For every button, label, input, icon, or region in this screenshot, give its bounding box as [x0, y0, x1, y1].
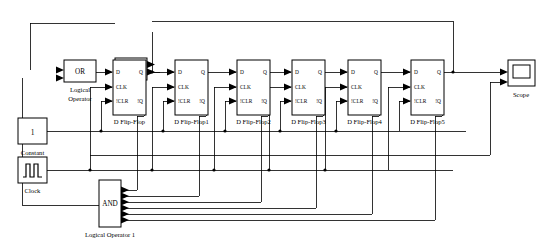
- port-label-clk: CLK: [295, 84, 306, 90]
- flipflop-label: D Flip-Flop3: [291, 118, 326, 125]
- wire-ff5-qbar-to-and-in6[interactable]: [124, 103, 442, 220]
- port-label-d: D: [295, 69, 299, 75]
- flipflop-label: D Flip-Flop1: [174, 118, 209, 125]
- and-input-4-arrow: [121, 205, 129, 212]
- scope-input-1-arrow: [500, 69, 508, 76]
- constant-value: 1: [31, 128, 35, 137]
- scope-input-2-arrow: [500, 79, 508, 86]
- and-label: Logical Operator 1: [85, 231, 135, 238]
- block-d-flip-flop-3[interactable]: DCLK!CLRQ!Q: [284, 60, 325, 115]
- input-port-clk-arrow: [340, 84, 348, 91]
- wire-clr-drop-ff3[interactable]: [280, 101, 291, 131]
- and-input-6-arrow: [121, 217, 129, 224]
- junction-clk-ff3: [267, 168, 270, 171]
- port-label-clk: CLK: [240, 84, 251, 90]
- port-label-q: Q: [263, 69, 267, 75]
- block-diagram: XOR Logical Operator 2 OR Logical Operat…: [0, 0, 545, 242]
- port-label-qbar: !Q: [261, 98, 267, 104]
- port-label-d: D: [178, 69, 182, 75]
- port-label-d: D: [116, 69, 120, 75]
- junction-clk-ff4: [323, 168, 326, 171]
- block-constant[interactable]: 1 Constant: [18, 118, 47, 156]
- port-label-q: Q: [437, 69, 441, 75]
- and-input-5-arrow: [121, 211, 129, 218]
- input-port-d-arrow: [340, 69, 348, 76]
- junction-clr-ff4: [334, 129, 337, 132]
- port-label-q: Q: [374, 69, 378, 75]
- wire-ff1-qbar-to-and-in2[interactable]: [124, 103, 206, 196]
- input-port-clk-arrow: [167, 84, 175, 91]
- simulink-model-canvas[interactable]: XOR Logical Operator 2 OR Logical Operat…: [0, 0, 545, 242]
- port-label-clr: !CLR: [414, 98, 427, 104]
- input-port-d-arrow: [229, 69, 237, 76]
- junction-ff5q: [451, 70, 454, 73]
- port-label-q: Q: [139, 69, 143, 75]
- junction-clk-ff2: [212, 168, 215, 171]
- clock-body[interactable]: [18, 157, 47, 183]
- flipflop-label: D Flip-Flop4: [347, 118, 382, 125]
- input-port-clk-arrow: [229, 84, 237, 91]
- wire-clr-drop-ff4[interactable]: [336, 101, 347, 131]
- and-input-2-arrow: [121, 193, 129, 200]
- input-port-d-arrow: [167, 69, 175, 76]
- junction-clr-ff0: [99, 129, 102, 132]
- port-label-qbar: !Q: [435, 98, 441, 104]
- wire-clr-drop-ff5[interactable]: [399, 101, 410, 131]
- port-label-clk: CLK: [351, 84, 362, 90]
- port-label-clr: !CLR: [240, 98, 253, 104]
- constant-label: Constant: [21, 149, 45, 156]
- junction-clr-ff1: [161, 129, 164, 132]
- wire-clr-drop-ff1[interactable]: [163, 101, 174, 131]
- flipflop-label: D Flip-Flop2: [236, 118, 271, 125]
- input-port-clr-arrow: [105, 98, 113, 105]
- input-port-clr-arrow: [229, 98, 237, 105]
- port-label-clr: !CLR: [116, 98, 129, 104]
- port-label-d: D: [240, 69, 244, 75]
- input-port-clk-arrow: [105, 84, 113, 91]
- flipflop-group: DCLK!CLRQ!QD Flip-FlopDCLK!CLRQ!QD Flip-…: [105, 60, 446, 125]
- scope-label: Scope: [513, 91, 529, 98]
- block-d-flip-flop-1[interactable]: DCLK!CLRQ!Q: [167, 60, 208, 115]
- junction-clr-ff2: [223, 129, 226, 132]
- junction-clk-ff1: [150, 168, 153, 171]
- or-label-line2: Operator: [68, 95, 92, 102]
- port-label-d: D: [351, 69, 355, 75]
- or-input-1-arrow: [56, 67, 64, 74]
- block-logical-operator[interactable]: OR Logical Operator: [56, 60, 96, 102]
- port-label-qbar: !Q: [372, 98, 378, 104]
- xor-input-1-arrow: [147, 61, 155, 68]
- input-port-clr-arrow: [340, 98, 348, 105]
- port-label-qbar: !Q: [137, 98, 143, 104]
- wire-clr-drop-ff2[interactable]: [225, 101, 236, 131]
- and-symbol: AND: [102, 200, 118, 208]
- input-port-clr-arrow: [403, 98, 411, 105]
- and-input-1-arrow: [121, 187, 129, 194]
- junction-clr-ff3: [278, 129, 281, 132]
- block-logical-operator-1[interactable]: AND Logical Operator 1: [85, 180, 135, 238]
- port-label-q: Q: [201, 69, 205, 75]
- port-label-clk: CLK: [178, 84, 189, 90]
- input-port-clr-arrow: [167, 98, 175, 105]
- block-scope[interactable]: Scope: [500, 60, 535, 98]
- port-label-d: D: [414, 69, 418, 75]
- or-label-line1: Logical: [70, 86, 90, 93]
- scope-screen-icon: [513, 65, 530, 78]
- block-d-flip-flop-5[interactable]: DCLK!CLRQ!Q: [403, 60, 444, 115]
- junction-clk-ff0: [88, 168, 91, 171]
- port-label-clr: !CLR: [178, 98, 191, 104]
- block-d-flip-flop-2[interactable]: DCLK!CLRQ!Q: [229, 60, 270, 115]
- port-label-clk: CLK: [116, 84, 127, 90]
- port-label-q: Q: [318, 69, 322, 75]
- block-d-flip-flop-0[interactable]: DCLK!CLRQ!Q: [105, 60, 146, 115]
- block-d-flip-flop-4[interactable]: DCLK!CLRQ!Q: [340, 60, 381, 115]
- wire-ff0q-to-xor-in2[interactable]: [152, 32, 160, 72]
- port-label-clr: !CLR: [351, 98, 364, 104]
- port-label-qbar: !Q: [316, 98, 322, 104]
- input-port-d-arrow: [284, 69, 292, 76]
- input-port-clk-arrow: [403, 84, 411, 91]
- and-input-3-arrow: [121, 199, 129, 206]
- wire-ff0-qbar-to-and-in1[interactable]: [124, 103, 144, 190]
- wire-clr-drop-ff0[interactable]: [101, 101, 112, 131]
- port-label-clr: !CLR: [295, 98, 308, 104]
- input-port-d-arrow: [105, 69, 113, 76]
